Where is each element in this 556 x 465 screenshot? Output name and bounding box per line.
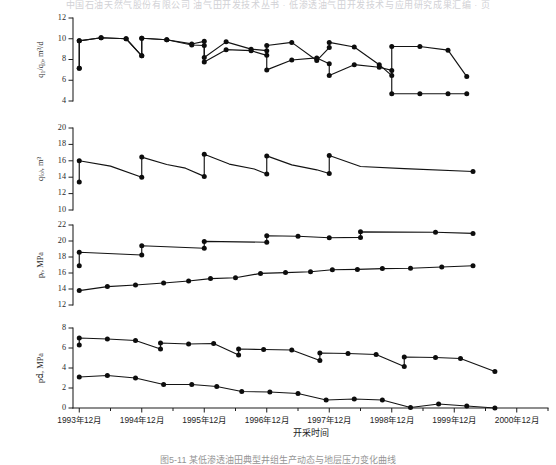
- x-tick-label: 1999年12月: [432, 415, 476, 425]
- data-point: [202, 174, 207, 179]
- data-point: [471, 263, 476, 268]
- y-axis-title: pᵣ, MPa: [36, 252, 45, 278]
- data-point: [389, 68, 394, 73]
- data-point: [330, 267, 335, 272]
- data-point: [161, 281, 166, 286]
- data-point: [327, 171, 332, 176]
- data-point: [264, 233, 269, 238]
- y-tick-label: 4: [62, 96, 66, 105]
- multi-panel-production-chart: 4681012q₁/q₀, m³/d101214161820q₍ₒ₎, m³12…: [0, 0, 556, 465]
- data-point: [77, 375, 82, 380]
- data-point: [327, 73, 332, 78]
- x-tick-label: 1993年12月: [57, 415, 101, 425]
- data-point: [139, 36, 144, 41]
- data-point: [233, 275, 238, 280]
- data-point: [105, 284, 110, 289]
- data-point: [464, 91, 469, 96]
- y-tick-label: 0: [62, 403, 66, 412]
- data-point: [471, 169, 476, 174]
- data-point: [352, 45, 357, 50]
- y-tick-label: 10: [58, 205, 66, 214]
- data-point: [358, 235, 363, 240]
- data-point: [464, 74, 469, 79]
- x-tick-label: 1995年12月: [182, 415, 226, 425]
- data-point: [408, 266, 413, 271]
- data-point: [264, 67, 269, 72]
- data-point: [139, 243, 144, 248]
- y-tick-label: 22: [58, 220, 66, 229]
- data-point: [124, 36, 129, 41]
- panel-2: 101214161820q₍ₒ₎, m³: [36, 123, 476, 214]
- y-tick-label: 14: [58, 284, 66, 293]
- x-tick-label: 1997年12月: [307, 415, 351, 425]
- data-point: [249, 48, 254, 53]
- data-point: [346, 351, 351, 356]
- data-point: [358, 229, 363, 234]
- x-axis-title: 开采时间: [293, 427, 329, 438]
- data-point: [77, 180, 82, 185]
- series-line-upper-drawdown: [79, 338, 495, 372]
- data-point: [296, 391, 301, 396]
- data-point: [327, 153, 332, 158]
- series-line-gas-rate: [79, 154, 473, 182]
- y-tick-label: 14: [58, 172, 66, 181]
- data-point: [446, 48, 451, 53]
- data-point: [202, 43, 207, 48]
- data-point: [261, 347, 266, 352]
- data-point: [352, 62, 357, 67]
- data-point: [327, 235, 332, 240]
- data-point: [77, 38, 82, 43]
- data-point: [133, 283, 138, 288]
- data-point: [267, 390, 272, 395]
- data-point: [417, 44, 422, 49]
- y-tick-label: 16: [58, 268, 66, 277]
- data-point: [105, 337, 110, 342]
- data-point: [236, 353, 241, 358]
- data-point: [402, 355, 407, 360]
- data-point: [264, 171, 269, 176]
- y-tick-label: 10: [58, 34, 66, 43]
- series-line-upper: [79, 38, 467, 77]
- data-point: [324, 398, 329, 403]
- y-tick-label: 18: [58, 139, 66, 148]
- data-point: [380, 398, 385, 403]
- data-point: [239, 389, 244, 394]
- data-point: [139, 253, 144, 258]
- data-point: [158, 341, 163, 346]
- series-line-lower-flowing-pressure: [79, 266, 473, 291]
- y-tick-label: 12: [58, 300, 66, 309]
- y-axis-title: q₍ₒ₎, m³: [36, 157, 45, 181]
- y-tick-label: 16: [58, 156, 66, 165]
- data-point: [77, 158, 82, 163]
- figure-root: 中国石油天然气股份有限公司 油气田开发技术丛书 · 低渗透油气田开发技术与应用研…: [0, 0, 556, 465]
- data-point: [236, 347, 241, 352]
- data-point: [189, 382, 194, 387]
- data-point: [317, 358, 322, 363]
- data-point: [214, 384, 219, 389]
- data-point: [139, 155, 144, 160]
- series-line-lower-drawdown: [79, 376, 495, 409]
- y-tick-label: 4: [62, 363, 66, 372]
- x-tick-label: 1996年12月: [245, 415, 289, 425]
- data-point: [389, 91, 394, 96]
- figure-caption: 图5-11 某低渗透油田典型井组生产动态与地层压力变化曲线: [0, 453, 556, 465]
- y-tick-label: 20: [58, 123, 66, 132]
- data-point: [186, 342, 191, 347]
- x-tick-label: 1998年12月: [370, 415, 414, 425]
- data-point: [77, 336, 82, 341]
- data-point: [139, 53, 144, 58]
- panel-3: 121416182022pᵣ, MPa: [36, 220, 476, 309]
- data-point: [264, 153, 269, 158]
- y-axis-title: q₁/q₀, m³/d: [36, 41, 45, 78]
- data-point: [202, 246, 207, 251]
- data-point: [77, 343, 82, 348]
- data-point: [327, 45, 332, 50]
- data-point: [374, 352, 379, 357]
- data-point: [433, 230, 438, 235]
- y-tick-label: 12: [58, 188, 66, 197]
- data-point: [355, 267, 360, 272]
- data-point: [289, 58, 294, 63]
- data-point: [327, 61, 332, 66]
- panel-1: 4681012q₁/q₀, m³/d: [36, 13, 469, 105]
- data-point: [186, 279, 191, 284]
